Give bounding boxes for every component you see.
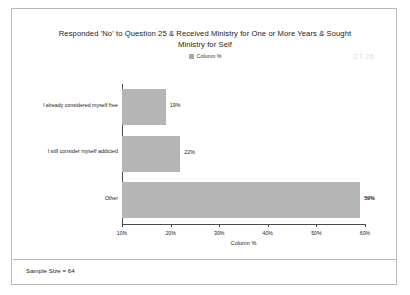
legend-swatch-icon	[189, 54, 194, 59]
x-axis-tick-3	[268, 224, 269, 227]
bar-value-label-2: 59%	[364, 195, 375, 201]
y-axis-category-labels: I already considered myself free I still…	[32, 84, 118, 224]
bar-value-label-0: 19%	[170, 102, 181, 108]
x-axis-tick-label-5: 60%	[360, 230, 370, 236]
chart-title-line-2: Ministry for Self	[38, 39, 372, 50]
bar-already-considered-free[interactable]	[122, 89, 166, 125]
bar-row-1: 22%	[122, 131, 365, 178]
bar-row-2: 59%	[122, 177, 365, 224]
x-axis-tick-4	[316, 224, 317, 227]
x-axis-tick-label-0: 10%	[117, 230, 127, 236]
watermark-label: CT-26	[353, 53, 374, 60]
plot-area: 19% 22% 59% 10% 20% 30% 40% 50% 60%	[122, 84, 365, 224]
x-axis-tick-label-3: 40%	[263, 230, 273, 236]
bar-value-label-1: 22%	[184, 149, 195, 155]
chart-card: Responded 'No' to Question 25 & Received…	[11, 8, 397, 285]
x-axis-tick-label-1: 20%	[165, 230, 175, 236]
x-axis-tick-5	[365, 224, 366, 227]
y-category-label-1: I still consider myself addicted	[48, 148, 118, 154]
x-axis-tick-0	[122, 224, 123, 227]
x-axis-tick-label-4: 50%	[311, 230, 321, 236]
bar-still-consider-addicted[interactable]	[122, 136, 180, 172]
x-axis-tick-2	[219, 224, 220, 227]
bar-row-0: 19%	[122, 84, 365, 131]
y-category-label-2: Other	[105, 195, 118, 201]
x-axis-line	[122, 224, 365, 225]
chart-title: Responded 'No' to Question 25 & Received…	[38, 28, 372, 50]
chart-title-line-1: Responded 'No' to Question 25 & Received…	[38, 28, 372, 39]
legend-label-column-pct: Column %	[197, 53, 222, 59]
bar-other[interactable]	[122, 182, 360, 218]
x-axis-title: Column %	[122, 240, 365, 246]
footer-divider	[13, 259, 397, 260]
chart-legend: Column %	[12, 53, 398, 59]
x-axis-tick-label-2: 30%	[214, 230, 224, 236]
x-axis-tick-1	[171, 224, 172, 227]
sample-size-label: Sample Size = 64	[26, 267, 75, 274]
y-category-label-0: I already considered myself free	[43, 102, 118, 108]
